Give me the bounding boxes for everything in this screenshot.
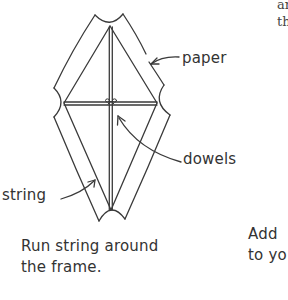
- dowels-arrow: [118, 116, 182, 162]
- paper-label: paper: [182, 51, 227, 66]
- body-text-line-1: an: [277, 0, 288, 13]
- string-arrow: [61, 180, 95, 199]
- dowels-label: dowels: [183, 152, 236, 167]
- string-frame: [64, 26, 157, 210]
- main-caption-line-2: the frame.: [21, 257, 159, 278]
- main-caption: Run string around the frame.: [21, 236, 159, 278]
- right-caption-line-2: to yo: [248, 245, 287, 266]
- paper-arrow: [151, 57, 179, 64]
- right-caption-line-1: Add: [248, 224, 287, 245]
- string-label: string: [2, 188, 46, 203]
- body-text-fragment: an th: [277, 0, 288, 30]
- dowels: [64, 27, 157, 210]
- body-text-line-2: th: [277, 13, 288, 30]
- page-canvas: paper dowels string Run string around th…: [0, 0, 288, 300]
- main-caption-line-1: Run string around: [21, 236, 159, 257]
- right-caption-fragment: Add to yo: [248, 224, 287, 266]
